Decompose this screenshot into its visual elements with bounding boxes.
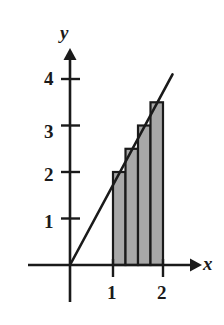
arrow-up-icon: [64, 48, 77, 60]
riemann-rectangles: [113, 102, 163, 265]
x-tick-label-1: 1: [107, 283, 117, 302]
y-tick-label-4: 4: [44, 69, 54, 88]
y-tick-label-2: 2: [44, 165, 54, 184]
table-row: [151, 102, 164, 265]
table-row: [126, 149, 139, 265]
table-row: [113, 172, 126, 265]
y-axis-label: y: [60, 23, 68, 42]
x-tick-label-2: 2: [157, 283, 167, 302]
arrow-right-icon: [190, 259, 202, 272]
y-tick-label-1: 1: [44, 212, 54, 231]
riemann-sum-figure: y x 4 3 2 1 1 2: [0, 0, 224, 325]
figure-canvas: [0, 0, 224, 325]
y-tick-label-3: 3: [44, 122, 54, 141]
x-axis-label: x: [203, 254, 213, 273]
table-row: [138, 126, 151, 266]
